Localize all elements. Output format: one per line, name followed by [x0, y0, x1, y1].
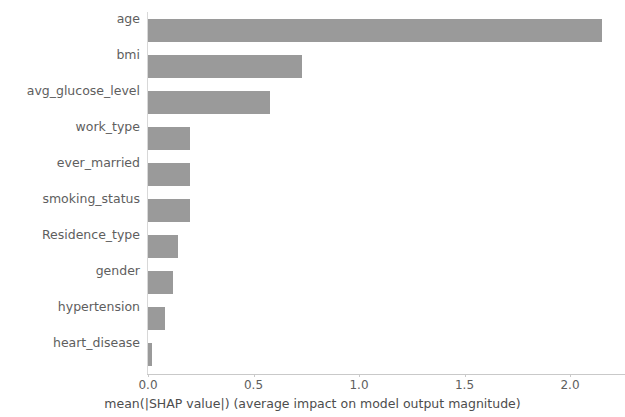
- bar-row: [148, 337, 625, 373]
- x-tick-label-0.0: 0.0: [138, 378, 157, 392]
- bar-row: [148, 121, 625, 157]
- x-tick-mark: [359, 374, 360, 377]
- bar-row: [148, 265, 625, 301]
- bar: [148, 235, 178, 258]
- y-tick-label-ever_married: ever_married: [0, 145, 140, 181]
- bar: [148, 127, 190, 150]
- y-tick-label-work_type: work_type: [0, 109, 140, 145]
- bar: [148, 199, 190, 222]
- bar: [148, 343, 152, 366]
- x-tick-mark: [465, 374, 466, 377]
- x-tick-label-0.5: 0.5: [244, 378, 263, 392]
- bar-row: [148, 49, 625, 85]
- bar-row: [148, 301, 625, 337]
- y-tick-label-bmi: bmi: [0, 37, 140, 73]
- x-tick-mark: [254, 374, 255, 377]
- shap-summary-bar-chart: agebmiavg_glucose_levelwork_typeever_mar…: [0, 0, 625, 417]
- bar-row: [148, 229, 625, 265]
- bar: [148, 163, 190, 186]
- bar-row: [148, 13, 625, 49]
- plot-area: [148, 12, 625, 375]
- y-tick-label-gender: gender: [0, 253, 140, 289]
- x-tick-label-1.0: 1.0: [349, 378, 368, 392]
- bar: [148, 91, 270, 114]
- bar-row: [148, 85, 625, 121]
- y-tick-label-age: age: [0, 1, 140, 37]
- bar: [148, 55, 302, 78]
- bar: [148, 271, 173, 294]
- y-tick-label-heart_disease: heart_disease: [0, 325, 140, 361]
- y-tick-label-hypertension: hypertension: [0, 289, 140, 325]
- bar-row: [148, 193, 625, 229]
- bar: [148, 19, 602, 42]
- bar-row: [148, 157, 625, 193]
- x-tick-mark: [570, 374, 571, 377]
- x-tick-label-1.5: 1.5: [455, 378, 474, 392]
- y-tick-label-residence_type: Residence_type: [0, 217, 140, 253]
- y-tick-label-smoking_status: smoking_status: [0, 181, 140, 217]
- x-tick-mark: [148, 374, 149, 377]
- x-axis-title: mean(|SHAP value|) (average impact on mo…: [0, 396, 625, 411]
- bar: [148, 307, 165, 330]
- x-tick-label-2.0: 2.0: [560, 378, 579, 392]
- y-tick-label-avg_glucose_level: avg_glucose_level: [0, 73, 140, 109]
